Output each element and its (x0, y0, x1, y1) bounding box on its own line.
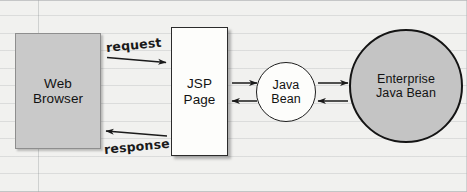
paper-top-edge (0, 0, 467, 1)
paper-bottom-edge (0, 191, 467, 192)
node-java-bean-label: Java Bean (271, 78, 301, 106)
node-java-bean[interactable]: Java Bean (256, 62, 316, 122)
node-web-browser[interactable]: Web Browser (15, 33, 101, 149)
node-enterprise-java-bean-label: Enterprise Java Bean (376, 72, 436, 100)
node-jsp-page-label: JSP Page (184, 76, 216, 106)
node-jsp-page[interactable]: JSP Page (171, 27, 228, 156)
node-enterprise-java-bean[interactable]: Enterprise Java Bean (349, 29, 463, 143)
node-web-browser-label: Web Browser (33, 76, 83, 106)
diagram-canvas: Web Browser JSP Page Java Bean Enterpris… (0, 0, 467, 192)
